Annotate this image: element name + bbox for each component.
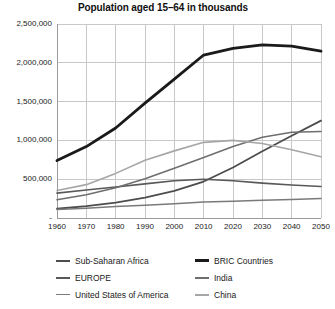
- legend-swatch-icon: [195, 259, 209, 262]
- legend-swatch-icon: [56, 294, 70, 295]
- legend-label: United States of America: [75, 290, 169, 300]
- legend-item[interactable]: United States of America: [56, 286, 169, 303]
- legend-swatch-icon: [195, 277, 209, 279]
- x-tick-label: 2000: [159, 222, 189, 231]
- x-tick-label: 1970: [71, 222, 101, 231]
- legend-item[interactable]: China: [195, 286, 273, 303]
- legend-item[interactable]: Sub-Saharan Africa: [56, 252, 169, 269]
- y-tick-label: 500,000: [0, 174, 52, 183]
- y-tick-label: -: [0, 213, 52, 222]
- y-tick-label: 2,000,000: [0, 58, 52, 67]
- x-tick-label: 2050: [306, 222, 335, 231]
- legend-item[interactable]: EUROPE: [56, 269, 169, 286]
- chart-legend: Sub-Saharan AfricaEUROPEUnited States of…: [0, 248, 326, 306]
- x-tick-label: 1990: [130, 222, 160, 231]
- legend-label: Sub-Saharan Africa: [75, 256, 149, 266]
- legend-swatch-icon: [195, 294, 209, 296]
- legend-swatch-icon: [56, 260, 70, 262]
- line-chart-svg: [0, 18, 326, 244]
- legend-label: BRIC Countries: [214, 256, 273, 266]
- y-tick-label: 1,000,000: [0, 135, 52, 144]
- x-tick-label: 2030: [247, 222, 277, 231]
- series-lines: [57, 45, 321, 210]
- legend-item[interactable]: India: [195, 269, 273, 286]
- legend-label: EUROPE: [75, 273, 111, 283]
- series-line: [57, 199, 321, 210]
- x-tick-label: 2040: [277, 222, 307, 231]
- x-tick-label: 2010: [189, 222, 219, 231]
- legend-label: India: [214, 273, 232, 283]
- legend-swatch-icon: [56, 277, 70, 279]
- y-tick-label: 2,500,000: [0, 19, 52, 28]
- legend-column-right: BRIC CountriesIndiaChina: [195, 252, 273, 303]
- series-line: [57, 140, 321, 190]
- x-tick-label: 1980: [101, 222, 131, 231]
- chart-title: Population aged 15–64 in thousands: [0, 2, 326, 13]
- legend-label: China: [214, 290, 236, 300]
- y-tick-label: 1,500,000: [0, 97, 52, 106]
- x-tick-label: 1960: [42, 222, 72, 231]
- x-tick-label: 2020: [218, 222, 248, 231]
- legend-item[interactable]: BRIC Countries: [195, 252, 273, 269]
- series-line: [57, 45, 321, 161]
- plot-area: -500,0001,000,0001,500,0002,000,0002,500…: [0, 18, 326, 244]
- legend-column-left: Sub-Saharan AfricaEUROPEUnited States of…: [56, 252, 169, 303]
